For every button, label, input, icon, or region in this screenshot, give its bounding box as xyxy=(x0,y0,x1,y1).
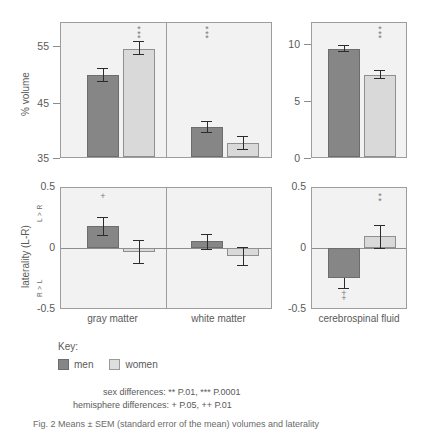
errorbar-women-csf-laterality xyxy=(380,225,381,248)
legend-entries: men women xyxy=(58,359,174,370)
errorbar-cap-bottom xyxy=(374,248,385,249)
asterisk-glyph: * xyxy=(364,36,396,41)
yaxis-direction-bottom: R > L xyxy=(36,279,43,297)
errorbar-cap-bottom xyxy=(133,263,144,264)
ytick-label-5: 5 xyxy=(275,96,300,106)
ytick xyxy=(304,44,311,45)
legend-swatch-women xyxy=(109,359,120,370)
asterisk-glyph: * xyxy=(364,199,396,204)
errorbar-cap-top xyxy=(237,136,248,137)
errorbar-cap-top xyxy=(97,217,108,218)
bar-women-gray-matter-volume xyxy=(123,49,155,158)
bar-men-csf-volume xyxy=(328,49,360,157)
ytick-label-55: 55 xyxy=(24,41,49,51)
yaxis-direction-top: L > R xyxy=(36,205,43,222)
plus-glyph: + xyxy=(328,296,360,301)
errorbar-men-gray-matter-laterality xyxy=(103,217,104,235)
significance-csf-volume: *** xyxy=(364,27,396,41)
legend-title: Key: xyxy=(58,341,174,352)
asterisk-glyph: *** xyxy=(123,27,155,41)
plus-glyph: + xyxy=(87,193,119,200)
ytick-label-35: 35 xyxy=(24,153,49,163)
errorbar-cap-top xyxy=(97,68,108,69)
note-sex-differences: sex differences: ** P.01, *** P.0001 xyxy=(103,387,241,397)
errorbar-cap-top xyxy=(237,247,248,248)
ytick xyxy=(53,46,60,47)
bar-men-gray-matter-volume xyxy=(87,75,119,157)
ytick xyxy=(53,158,60,159)
errorbar-cap-bottom xyxy=(237,265,248,266)
ytick-label-0: 0 xyxy=(275,153,300,163)
ytick-label-0point5: 0.5 xyxy=(24,181,55,191)
errorbar-cap-top xyxy=(133,240,144,241)
errorbar-cap-bottom xyxy=(237,149,248,150)
yaxis-title-volume: % volume xyxy=(20,72,31,116)
asterisk-glyph: *** xyxy=(191,27,223,41)
errorbar-women-gray-matter-laterality xyxy=(139,240,140,264)
errorbar-cap-top xyxy=(201,121,212,122)
errorbar-cap-bottom xyxy=(201,132,212,133)
errorbar-cap-bottom xyxy=(133,54,144,55)
ytick xyxy=(304,158,311,159)
chart-laterality-tissue: + xyxy=(60,187,272,309)
significance-white-matter-volume: *** xyxy=(191,27,223,41)
plus-glyph: ++ xyxy=(328,291,360,300)
chart-volume-csf: *** xyxy=(311,22,407,158)
errorbar-men-white-matter-laterality xyxy=(207,234,208,250)
errorbar-cap-top xyxy=(338,45,349,46)
xaxis-label-white-matter: white matter xyxy=(165,313,272,324)
ytick-label-10: 10 xyxy=(275,39,300,49)
significance-gray-matter-laterality: + xyxy=(87,193,119,200)
errorbar-cap-bottom xyxy=(97,235,108,236)
legend-swatch-men xyxy=(58,359,69,370)
note-hemisphere-differences: hemisphere differences: + P.05, ++ P.01 xyxy=(73,400,232,410)
panel-divider xyxy=(166,23,167,157)
asterisk-glyph: ** xyxy=(364,194,396,203)
errorbar-cap-bottom xyxy=(97,81,108,82)
errorbar-cap-top xyxy=(374,70,385,71)
plot-area-laterality-tissue: + xyxy=(61,188,271,308)
plot-area-volume-csf: *** xyxy=(312,23,406,157)
legend-label-men: men xyxy=(74,359,93,370)
significance-gray-matter-volume: *** xyxy=(123,27,155,41)
bar-men-csf-laterality xyxy=(328,248,360,278)
legend: Key: men women xyxy=(58,341,174,370)
ytick xyxy=(53,103,60,104)
ytick-label-0point5: 0.5 xyxy=(275,181,306,191)
errorbar-men-csf-laterality xyxy=(344,278,345,288)
chart-volume-tissue: *** *** xyxy=(60,22,272,158)
xaxis-label-gray-matter: gray matter xyxy=(60,313,165,324)
asterisk-glyph: * xyxy=(123,36,155,41)
errorbar-women-white-matter-laterality xyxy=(243,247,244,265)
asterisk-glyph: * xyxy=(191,36,223,41)
xaxis-label-cerebrospinal-fluid: cerebrospinal fluid xyxy=(296,313,422,324)
errorbar-cap-bottom xyxy=(338,51,349,52)
significance-csf-laterality: ** xyxy=(364,194,396,203)
figure-caption: Fig. 2 Means ± SEM (standard error of th… xyxy=(33,419,319,429)
asterisk-glyph: *** xyxy=(364,27,396,41)
bar-women-csf-volume xyxy=(364,75,396,157)
hemisphere-mark-csf-laterality: ++ xyxy=(328,291,360,300)
chart-laterality-csf: ++ ** xyxy=(311,187,407,309)
errorbar-cap-top xyxy=(374,225,385,226)
ytick xyxy=(304,101,311,102)
errorbar-cap-top xyxy=(201,234,212,235)
plot-area-volume-tissue: *** *** xyxy=(61,23,271,157)
ytick-label-neg0point5: -0.5 xyxy=(20,303,55,313)
errorbar-cap-bottom xyxy=(374,78,385,79)
ytick-label-neg0point5: -0.5 xyxy=(271,303,306,313)
plot-area-laterality-csf: ++ ** xyxy=(312,188,406,308)
yaxis-title-laterality: laterality (L-R) xyxy=(20,225,31,288)
errorbar-cap-bottom xyxy=(201,249,212,250)
legend-label-women: women xyxy=(125,359,157,370)
ytick-label-0: 0 xyxy=(275,242,306,252)
